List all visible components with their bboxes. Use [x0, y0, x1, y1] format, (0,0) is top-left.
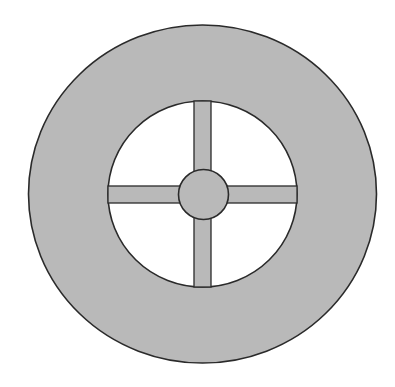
center-hub — [179, 170, 229, 220]
wheel-diagram — [0, 0, 395, 387]
